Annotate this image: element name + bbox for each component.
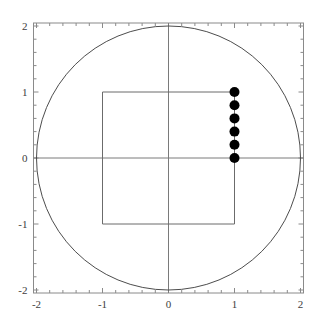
data-point-marker: [230, 100, 240, 110]
y-axis-tick-label: 1: [22, 86, 28, 98]
data-point-marker: [230, 140, 240, 150]
plot-background: [0, 0, 321, 327]
y-axis-tick-label: 2: [22, 20, 28, 32]
x-axis-tick-label: -2: [32, 298, 41, 310]
x-axis-tick-label: 1: [232, 298, 238, 310]
x-axis-tick-label: -1: [98, 298, 107, 310]
y-axis-tick-label: 0: [22, 152, 28, 164]
y-axis-tick-label: -1: [18, 218, 27, 230]
x-axis-tick-label: 0: [166, 298, 172, 310]
data-point-marker: [230, 87, 240, 97]
data-point-marker: [230, 127, 240, 137]
y-axis-tick-label: -2: [18, 284, 27, 296]
data-point-marker: [230, 153, 240, 163]
scatter-plot-canvas: -2-1012-2-1012: [0, 0, 321, 327]
data-point-marker: [230, 113, 240, 123]
x-axis-tick-label: 2: [298, 298, 304, 310]
plot-figure: -2-1012-2-1012: [0, 0, 321, 327]
